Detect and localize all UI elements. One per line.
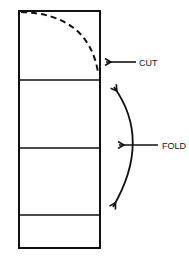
cut-label: CUT [139,58,158,68]
fold-curve-arrow-icon [113,87,133,207]
diagram-canvas: CUT FOLD [0,0,189,259]
cut-line-dashed [21,12,98,72]
fold-label: FOLD [162,141,187,151]
paper-strip [19,11,100,248]
